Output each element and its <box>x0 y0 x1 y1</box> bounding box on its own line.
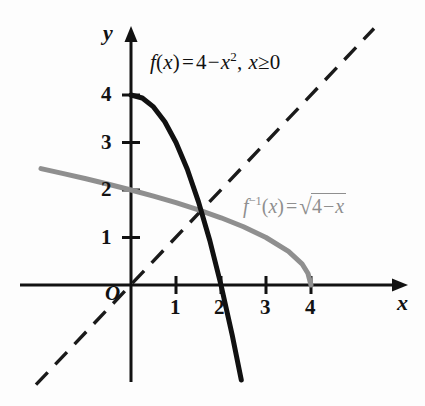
function-equation-domain-relation: ≥0 <box>258 50 280 74</box>
inverse-function-curve <box>41 169 311 285</box>
function-equation-comma: , <box>237 50 242 74</box>
function-equation-x-base: x <box>221 50 231 74</box>
origin-label: O <box>105 283 120 304</box>
function-equation-close-paren: ) <box>173 50 180 74</box>
function-equation-four: 4 <box>196 50 207 74</box>
y-tick-label-2: 2 <box>101 179 112 200</box>
function-equation-domain-variable: x <box>248 50 258 74</box>
function-equation-equals: = <box>182 50 194 74</box>
x-axis <box>20 279 408 292</box>
x-tick-label-2: 2 <box>214 297 225 318</box>
x-axis-label: x <box>397 292 408 314</box>
inverse-equation-radicand-variable: x <box>335 195 344 217</box>
inverse-equation-equals: = <box>286 195 297 217</box>
square-root-icon: √ <box>299 194 312 219</box>
function-equation-label: f(x)=4−x2,x≥0 <box>150 52 280 73</box>
x-tick-label-4: 4 <box>305 297 316 318</box>
y-tick-label-4: 4 <box>101 84 112 105</box>
inverse-equation-radicand-minus: − <box>323 195 334 217</box>
inverse-equation-radicand-four: 4 <box>312 195 322 217</box>
inverse-equation-exponent: −1 <box>249 194 262 208</box>
inverse-equation-radicand: 4−x <box>311 193 346 217</box>
function-equation-variable: x <box>163 50 173 74</box>
inverse-function-graph-figure: y x O 1 2 3 4 1 2 3 4 f(x)=4−x2,x≥0 f−1(… <box>0 0 425 406</box>
inverse-equation-variable: x <box>268 195 277 217</box>
x-tick-label-1: 1 <box>170 297 181 318</box>
y-tick-label-3: 3 <box>101 132 112 153</box>
inverse-equation-close-paren: ) <box>277 195 284 217</box>
y-axis <box>125 26 138 382</box>
y-axis-label: y <box>103 22 113 44</box>
x-tick-label-3: 3 <box>260 297 271 318</box>
function-equation-minus: − <box>208 50 220 74</box>
y-tick-label-1: 1 <box>101 227 112 248</box>
inverse-function-equation-label: f−1(x)=√4−x <box>243 194 346 217</box>
function-curve <box>131 95 241 380</box>
